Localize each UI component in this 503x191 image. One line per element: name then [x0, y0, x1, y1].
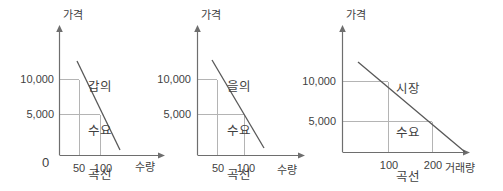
- curve-label-line-3: 곡선: [222, 168, 256, 183]
- y-tick-label-5000: 5,000: [0, 108, 54, 121]
- y-axis-label: 가격: [63, 9, 83, 22]
- y-tick-label-10000: 10,000: [282, 75, 336, 88]
- curve-label-line-1: 을의: [222, 80, 256, 95]
- chart-panel-3: 가격 10,000 5,000 100 200 거래량 시장 수요 곡선: [290, 0, 503, 191]
- curve-label-line-3: 곡선: [83, 168, 117, 183]
- y-tick-label-10000: 10,000: [137, 73, 191, 86]
- x-axis-label: 거래량: [445, 162, 475, 175]
- curve-label-line-2: 수요: [222, 124, 256, 139]
- y-tick-label-5000: 5,000: [137, 108, 191, 121]
- y-tick-label-10000: 10,000: [0, 73, 54, 86]
- chart-panel-1: 가격 10,000 5,000 0 50 100 수량 갑의 수요 곡선: [0, 0, 175, 191]
- curve-label-line-1: 갑의: [83, 80, 117, 95]
- x-axis-arrowhead-icon: [158, 152, 165, 158]
- curve-label-line-3: 곡선: [391, 170, 425, 185]
- y-axis-label: 가격: [346, 9, 366, 22]
- x-axis-arrowhead-icon: [463, 149, 470, 155]
- origin-label: 0: [42, 155, 49, 170]
- curve-label-line-1: 시장: [391, 82, 425, 97]
- y-axis-arrowhead-icon: [339, 25, 346, 32]
- y-axis-label: 가격: [201, 9, 221, 22]
- curve-label: 갑의 수요 곡선: [83, 50, 117, 191]
- y-tick-label-5000: 5,000: [282, 115, 336, 128]
- y-axis-arrowhead-icon: [194, 25, 201, 32]
- curve-label-line-2: 수요: [83, 124, 117, 139]
- y-axis-arrowhead-icon: [56, 25, 63, 32]
- demand-curve-figure: 가격 10,000 5,000 0 50 100 수량 갑의 수요 곡선: [0, 0, 503, 191]
- curve-label-line-2: 수요: [391, 126, 425, 141]
- curve-label: 을의 수요 곡선: [222, 50, 256, 191]
- x-axis-label: 수량: [135, 161, 155, 174]
- curve-label: 시장 수요 곡선: [391, 52, 425, 191]
